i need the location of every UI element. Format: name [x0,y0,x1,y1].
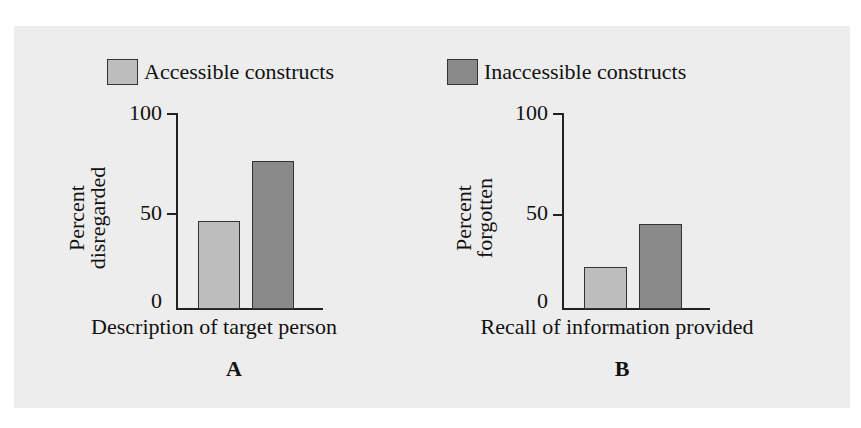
chart-a-y-axis [176,113,178,309]
legend-swatch-accessible [107,59,138,85]
chart-b-tick-50: 50 [498,202,548,224]
chart-b-tick-100: 100 [498,102,548,124]
legend-label-inaccessible: Inaccessible constructs [484,59,686,85]
chart-a-ylabel-line1: Percent [66,148,87,288]
chart-a-ylabel: Percent disregarded [66,148,110,288]
chart-a-tick-100: 100 [112,102,162,124]
chart-b-tickmark-50 [553,214,562,216]
chart-a-tickmark-100 [167,113,176,115]
chart-b-letter: B [602,356,642,382]
legend-item-accessible: Accessible constructs [107,59,334,85]
chart-b-bar-inaccessible [639,224,682,309]
legend-swatch-inaccessible [447,59,478,85]
chart-b-y-axis [562,113,564,309]
chart-a-letter: A [214,356,254,382]
chart-a-bar-accessible [198,221,240,309]
chart-b-ylabel-line2: forgotten [474,148,495,288]
chart-b-tick-0: 0 [498,290,548,312]
chart-b-tickmark-100 [553,113,562,115]
chart-b-ylabel-line1: Percent [453,148,474,288]
legend-label-accessible: Accessible constructs [144,59,334,85]
chart-b-ylabel: Percent forgotten [453,148,497,288]
chart-b-xlabel: Recall of information provided [457,314,777,340]
chart-a-xlabel: Description of target person [64,314,364,340]
chart-a-ylabel-line2: disregarded [87,148,108,288]
chart-a-tick-50: 50 [112,202,162,224]
chart-a-bar-inaccessible [252,161,294,309]
chart-b-bar-accessible [584,267,627,309]
chart-a-tickmark-50 [167,213,176,215]
legend-item-inaccessible: Inaccessible constructs [447,59,686,85]
chart-a-tick-0: 0 [112,290,162,312]
